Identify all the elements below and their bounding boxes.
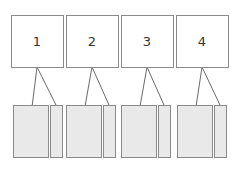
connector-line-left (32, 67, 37, 105)
node-group-3: 3 (122, 16, 174, 158)
node-label: 4 (198, 34, 206, 49)
node-group-1: 1 (12, 16, 64, 158)
connector-line-left (140, 67, 147, 105)
part-large (14, 106, 49, 158)
part-small (51, 106, 63, 158)
node-group-2: 2 (67, 16, 119, 158)
node-label: 3 (143, 34, 151, 49)
part-small (215, 106, 227, 158)
part-small (104, 106, 116, 158)
connector-line-right (92, 67, 109, 105)
connector-line-right (147, 67, 164, 105)
connector-line-left (196, 67, 202, 105)
connector-line-left (85, 67, 92, 105)
part-large (122, 106, 157, 158)
node-label: 1 (33, 34, 41, 49)
part-small (159, 106, 171, 158)
diagram-canvas: 1234 (0, 0, 235, 169)
connector-line-right (37, 67, 56, 105)
part-large (67, 106, 102, 158)
node-label: 2 (88, 34, 96, 49)
connector-line-right (202, 67, 220, 105)
node-group-4: 4 (177, 16, 229, 158)
part-large (178, 106, 213, 158)
